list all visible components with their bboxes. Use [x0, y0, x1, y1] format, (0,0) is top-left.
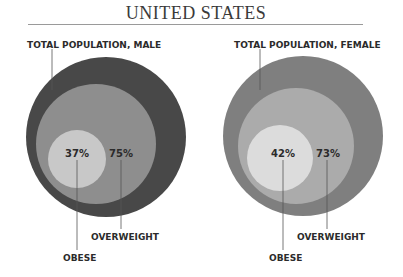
- male-overweight-label: OVERWEIGHT: [91, 232, 160, 242]
- female-overweight-label: OVERWEIGHT: [297, 232, 366, 242]
- female-overweight-value: 73%: [316, 148, 340, 159]
- female-obese-value: 42%: [271, 148, 295, 159]
- female-obese-label: OBESE: [269, 253, 302, 263]
- chart-canvas: TOTAL POPULATION, MALE 37% 75% OVERWEIGH…: [0, 0, 403, 277]
- male-total-label: TOTAL POPULATION, MALE: [27, 40, 161, 50]
- male-group: TOTAL POPULATION, MALE 37% 75% OVERWEIGH…: [26, 40, 186, 263]
- male-obese-value: 37%: [65, 148, 89, 159]
- female-group: TOTAL POPULATION, FEMALE 42% 73% OVERWEI…: [223, 40, 383, 263]
- female-total-label: TOTAL POPULATION, FEMALE: [234, 40, 381, 50]
- male-obese-label: OBESE: [63, 253, 96, 263]
- male-overweight-value: 75%: [109, 148, 133, 159]
